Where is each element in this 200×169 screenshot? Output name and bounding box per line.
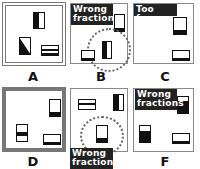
panel-c: Too few — [133, 3, 194, 64]
fraction-card-bottom-fill — [96, 125, 108, 143]
feedback-tag-too-few: Too few — [134, 4, 177, 16]
feedback-tag-wrong-fraction: Wrong fraction — [70, 148, 113, 169]
panel-label-f: F — [155, 155, 175, 169]
fraction-card-bottom-fill — [139, 125, 151, 143]
panel-label-b: B — [91, 70, 111, 84]
panel-f: Wrong fractions — [133, 88, 194, 152]
fraction-card-half-vertical — [113, 94, 124, 111]
panel-d — [2, 87, 66, 152]
fraction-card-stripe-top — [78, 99, 96, 110]
fraction-card-half-vertical — [102, 41, 112, 59]
fraction-card-bottom-strip — [172, 133, 190, 144]
fraction-card-diagonal — [19, 37, 31, 55]
tag-line: fraction — [73, 14, 111, 23]
tag-line: fraction — [72, 158, 111, 167]
feedback-tag-wrong-fractions: Wrong fractions — [135, 89, 177, 110]
panel-label-d: D — [23, 155, 43, 169]
fraction-card-bottom-strip — [81, 50, 95, 61]
fraction-card-bottom-strip — [172, 50, 190, 61]
fraction-card-bottom-fill — [49, 99, 61, 117]
fraction-card-bottom-fill — [173, 17, 187, 35]
panel-b: Wrong fraction — [70, 3, 128, 64]
panel-a — [2, 2, 66, 66]
fraction-card-half-vertical — [33, 12, 45, 29]
panel-e — [70, 88, 128, 152]
panel-label-c: C — [155, 70, 175, 84]
feedback-tag-wrong-fraction: Wrong fraction — [71, 4, 113, 25]
tag-line: fractions — [137, 99, 175, 108]
fraction-card-stripes — [41, 45, 59, 56]
panel-label-a: A — [23, 70, 43, 84]
fraction-card-middle-band — [16, 124, 28, 142]
tag-line: Too few — [136, 5, 175, 23]
fraction-card-bottom-strip — [43, 134, 61, 145]
